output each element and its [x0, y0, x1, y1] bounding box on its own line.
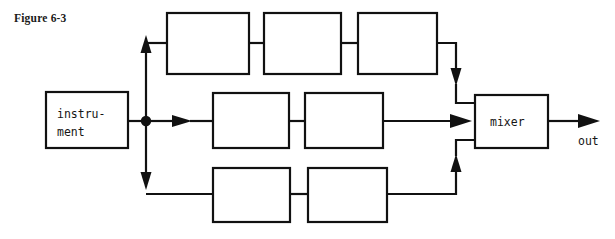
- arrowhead-bottom-into-mixer: [451, 154, 462, 172]
- output-label: out: [578, 134, 599, 148]
- instrument-label-line1: instru-: [57, 107, 105, 121]
- wire-top-mixer-entry: [456, 84, 475, 103]
- split-node-dot: [141, 116, 151, 126]
- arrowhead-output: [578, 114, 600, 128]
- top-chain-box-2: [264, 13, 341, 74]
- mixer-label: mixer: [490, 115, 525, 129]
- wire-bottom-chain-to-mixer: [387, 172, 456, 194]
- wire-bottom-mixer-entry: [456, 140, 475, 156]
- top-chain-box-1: [167, 13, 249, 74]
- top-chain-box-3: [358, 13, 437, 74]
- block-diagram: instru- ment mixer out: [0, 0, 615, 239]
- arrowhead-top-into-mixer: [451, 68, 462, 86]
- bottom-chain-box-1: [213, 168, 290, 222]
- wire-top-chain-to-mixer: [437, 43, 456, 68]
- arrowhead-middle-into-mixer: [450, 114, 472, 128]
- figure-page: Figure 6-3: [0, 0, 615, 239]
- middle-chain-box-2: [305, 93, 383, 148]
- instrument-label-line2: ment: [57, 125, 85, 139]
- arrowhead-middle-branch: [172, 115, 192, 127]
- middle-chain-box-1: [213, 93, 289, 148]
- arrowhead-down-branch: [141, 172, 152, 190]
- bottom-chain-box-2: [308, 168, 387, 222]
